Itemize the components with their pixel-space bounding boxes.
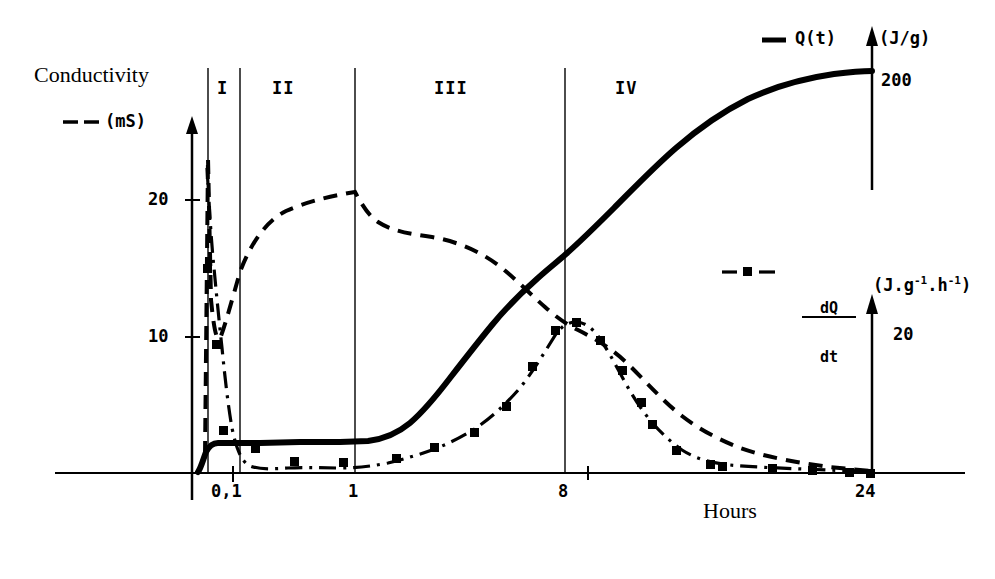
series-conductivity-curve: [205, 158, 872, 471]
y-tick-label-10: 10: [148, 328, 168, 345]
x-tick-label-24: 24: [855, 483, 875, 500]
legend-dqdt-line: [722, 267, 775, 276]
y-tick-label-20: 20: [148, 191, 168, 208]
dqdt-unit-open: (J.g: [873, 275, 914, 295]
figure-canvas: Conductivity (mS) Q(t) (J/g) 200 dQ dt (…: [0, 0, 995, 579]
series-dqdt-markers: [203, 264, 875, 478]
conductivity-title: Conductivity: [34, 64, 149, 86]
q-axis-unit-label: (J/g): [879, 30, 930, 47]
series-dqdt-curve: [207, 168, 870, 471]
x-axis-title: Hours: [703, 500, 757, 522]
q-axis-arrow: [866, 26, 878, 46]
phase-label-III: III: [434, 80, 468, 97]
dqdt-unit-label: (J.g-1.h-1): [832, 258, 971, 311]
dqdt-unit-exponent-1: -1: [914, 274, 927, 287]
dqdt-unit-close: ): [961, 275, 971, 295]
q-axis-tick-200: 200: [881, 72, 912, 89]
dqdt-unit-mid: .h: [927, 275, 947, 295]
phase-label-IV: IV: [615, 80, 637, 97]
x-tick-label-8: 8: [558, 483, 568, 500]
x-tick-label-1: 1: [348, 483, 358, 500]
x-tick-label-0-1: 0,1: [211, 483, 242, 500]
dqdt-denominator: dt: [802, 350, 856, 366]
left-axis-arrow: [186, 116, 198, 134]
dqdt-unit-exponent-2: -1: [948, 274, 961, 287]
phase-label-II: II: [272, 80, 294, 97]
conductivity-legend-unit: (mS): [105, 113, 146, 130]
q-legend-label: Q(t): [795, 30, 836, 47]
phase-label-I: I: [217, 80, 228, 97]
dqdt-axis-tick-20: 20: [893, 326, 913, 343]
